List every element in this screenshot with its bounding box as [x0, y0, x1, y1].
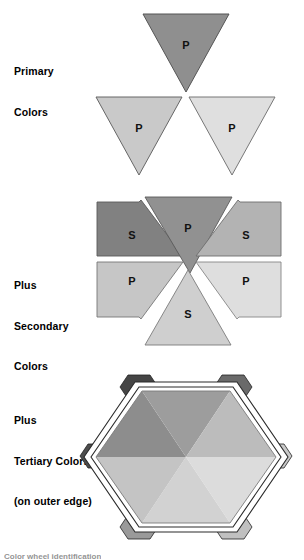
primary-triangle-bottom-right: P — [189, 97, 275, 175]
secondary-colors-graphic: S P S P S — [0, 180, 304, 365]
wedge-letter: P — [128, 275, 135, 287]
wedge-letter: P — [242, 275, 249, 287]
section-primary-colors: Primary Colors P P P — [0, 0, 304, 180]
triangle-shape — [96, 97, 182, 175]
primary-triangle-top: P — [143, 14, 229, 92]
triangle-letter: P — [135, 122, 142, 134]
section-secondary-colors: Plus Secondary Colors S P S — [0, 180, 304, 365]
wedge-letter: S — [242, 229, 249, 241]
wedge-letter: S — [128, 229, 135, 241]
triangle-letter: P — [182, 39, 189, 51]
triangle-letter: P — [228, 122, 235, 134]
triangle-shape — [189, 97, 275, 175]
footer-caption: Color wheel identification — [4, 552, 101, 560]
section-tertiary-colors: Plus Tertiary Colors (on outer edge) — [0, 365, 304, 560]
primary-colors-graphic: P P P — [0, 0, 304, 180]
wedge-letter: P — [184, 222, 191, 234]
triangle-shape — [143, 14, 229, 92]
tertiary-colors-graphic — [0, 365, 304, 560]
wedge-letter: S — [184, 308, 191, 320]
color-wheel-diagram: Primary Colors P P P Plus Seconda — [0, 0, 304, 560]
primary-triangle-bottom-left: P — [96, 97, 182, 175]
